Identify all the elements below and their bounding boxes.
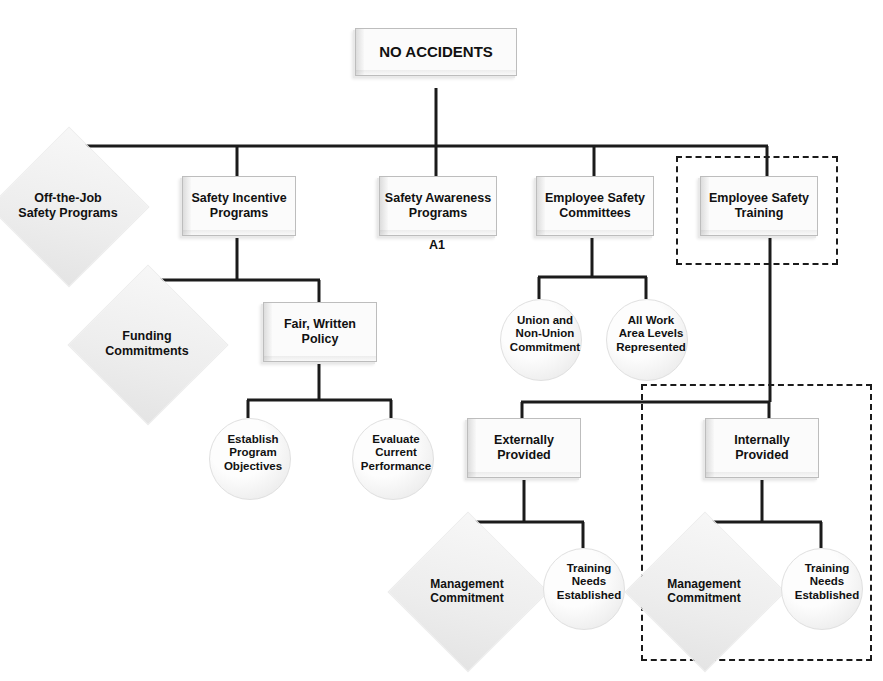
node-union-and-non-union-commitment[interactable]: Union andNon-UnionCommitment bbox=[500, 299, 582, 381]
node-establish-program-objectives[interactable]: EstablishProgramObjectives bbox=[209, 418, 291, 500]
node-ext-management-commitment[interactable]: ManagementCommitment bbox=[411, 535, 523, 647]
node-employee-safety-training[interactable]: Employee SafetyTraining bbox=[700, 176, 818, 236]
node-label-funding-commitments: FundingCommitments bbox=[103, 329, 190, 359]
node-label-fair-written-policy: Fair, WrittenPolicy bbox=[282, 317, 358, 347]
annotation-a1-text: A1 bbox=[429, 238, 445, 252]
diagram-canvas: NO ACCIDENTS Off-the-JobSafety Programs … bbox=[0, 0, 883, 681]
node-funding-commitments[interactable]: FundingCommitments bbox=[91, 288, 203, 400]
node-label-ext-management-commitment: ManagementCommitment bbox=[428, 577, 505, 605]
node-label-evaluate-performance: EvaluateCurrentPerformance bbox=[359, 433, 433, 474]
node-label-ext-training-needs: TrainingNeedsEstablished bbox=[555, 562, 624, 603]
node-int-management-commitment[interactable]: ManagementCommitment bbox=[648, 535, 760, 647]
node-ext-training-needs-established[interactable]: TrainingNeedsEstablished bbox=[543, 548, 625, 630]
node-label-employee-committees: Employee SafetyCommittees bbox=[543, 191, 647, 221]
node-off-the-job-safety-programs[interactable]: Off-the-JobSafety Programs bbox=[12, 150, 124, 262]
node-label-employee-training: Employee SafetyTraining bbox=[707, 191, 811, 221]
node-externally-provided[interactable]: ExternallyProvided bbox=[467, 418, 581, 478]
node-fair-written-policy[interactable]: Fair, WrittenPolicy bbox=[263, 302, 377, 362]
node-employee-safety-committees[interactable]: Employee SafetyCommittees bbox=[536, 176, 654, 236]
node-safety-incentive-programs[interactable]: Safety IncentivePrograms bbox=[182, 176, 296, 236]
node-label-off-the-job: Off-the-JobSafety Programs bbox=[16, 191, 119, 221]
node-label-establish-objectives: EstablishProgramObjectives bbox=[222, 433, 284, 474]
node-label-internally-provided: InternallyProvided bbox=[732, 433, 792, 463]
node-label-safety-awareness: Safety AwarenessPrograms bbox=[383, 191, 493, 221]
node-label-all-work-area-levels: All WorkArea LevelsRepresented bbox=[614, 314, 688, 355]
node-all-work-area-levels-represented[interactable]: All WorkArea LevelsRepresented bbox=[606, 299, 688, 381]
node-evaluate-current-performance[interactable]: EvaluateCurrentPerformance bbox=[352, 418, 434, 500]
node-label-no-accidents: NO ACCIDENTS bbox=[377, 43, 495, 61]
node-label-int-training-needs: TrainingNeedsEstablished bbox=[793, 562, 862, 603]
node-label-safety-incentive: Safety IncentivePrograms bbox=[189, 191, 288, 221]
node-safety-awareness-programs[interactable]: Safety AwarenessPrograms bbox=[379, 176, 497, 236]
node-no-accidents[interactable]: NO ACCIDENTS bbox=[355, 28, 517, 76]
node-int-training-needs-established[interactable]: TrainingNeedsEstablished bbox=[781, 548, 863, 630]
node-label-union-non-union: Union andNon-UnionCommitment bbox=[508, 314, 582, 355]
node-label-externally-provided: ExternallyProvided bbox=[492, 433, 556, 463]
annotation-a1: A1 bbox=[382, 238, 492, 252]
node-internally-provided[interactable]: InternallyProvided bbox=[705, 418, 819, 478]
node-label-int-management-commitment: ManagementCommitment bbox=[665, 577, 742, 605]
